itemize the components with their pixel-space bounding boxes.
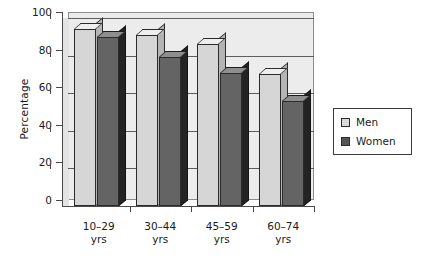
- bar-face: [282, 101, 304, 206]
- legend-label-men: Men: [356, 116, 378, 128]
- y-axis-tick: 100: [56, 12, 62, 13]
- bar-side: [304, 89, 311, 206]
- plot-area: 020406080100 10–29yrs30–44yrs45–59yrs60–…: [62, 12, 314, 208]
- bar-face: [259, 74, 281, 206]
- bar-women-3: [220, 73, 242, 206]
- category-unit: yrs: [245, 233, 321, 246]
- y-axis-tick: 40: [56, 125, 62, 126]
- bar-men-1: [74, 29, 96, 206]
- y-axis-tick-step: [50, 88, 51, 94]
- bar-side: [119, 25, 126, 206]
- x-axis-tick: [130, 206, 131, 212]
- bar-face: [197, 44, 219, 206]
- y-axis-tick-label: 0: [45, 194, 52, 206]
- bar-face: [74, 29, 96, 206]
- bar-women-2: [159, 57, 181, 206]
- bar-side: [181, 46, 188, 206]
- x-axis-category-label: 60–74yrs: [245, 220, 321, 246]
- category-range: 45–59: [206, 220, 238, 232]
- category-range: 60–74: [267, 220, 299, 232]
- legend-item-women: Women: [341, 135, 396, 147]
- legend-item-men: Men: [341, 116, 378, 128]
- y-axis-tick-step: [50, 126, 51, 132]
- x-axis-tick: [191, 206, 192, 212]
- bar-face: [97, 37, 119, 206]
- y-axis-label: Percentage: [18, 54, 30, 164]
- x-axis-tick: [253, 206, 254, 212]
- bar-face: [159, 57, 181, 206]
- y-axis-tick-step: [50, 163, 51, 169]
- x-axis-line: [62, 206, 314, 207]
- legend-label-women: Women: [356, 135, 396, 147]
- category-range: 30–44: [144, 220, 176, 232]
- bar-women-1: [97, 37, 119, 206]
- bar-chart: Percentage 020406080100 10–29yrs30–44yrs…: [0, 0, 421, 258]
- legend-swatch-men: [341, 118, 350, 127]
- bar-face: [136, 35, 158, 206]
- bar-women-4: [282, 101, 304, 206]
- bar-face: [220, 73, 242, 206]
- y-axis-line: [62, 12, 63, 206]
- bar-men-2: [136, 35, 158, 206]
- category-range: 10–29: [83, 220, 115, 232]
- y-axis-tick-step: [50, 13, 51, 19]
- y-axis-tick-step: [50, 51, 51, 57]
- plot-inner: 020406080100: [68, 18, 314, 206]
- y-axis-tick-label: 100: [32, 6, 52, 18]
- bar-side: [242, 61, 249, 206]
- legend: Men Women: [333, 108, 412, 155]
- bar-men-3: [197, 44, 219, 206]
- x-axis-tick: [314, 206, 315, 212]
- y-axis-tick: 0: [56, 200, 62, 201]
- y-axis-tick: 80: [56, 50, 62, 51]
- y-axis-tick: 20: [56, 162, 62, 163]
- legend-swatch-women: [341, 137, 350, 146]
- bar-men-4: [259, 74, 281, 206]
- bars-layer: [68, 18, 314, 206]
- y-axis-tick: 60: [56, 87, 62, 88]
